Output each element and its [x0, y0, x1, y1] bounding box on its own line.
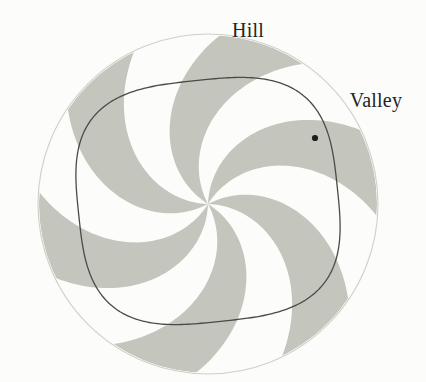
hill-label: Hill: [232, 20, 264, 40]
valley-point-marker: [312, 135, 318, 141]
figure-container: Hill Valley: [0, 0, 426, 382]
pinwheel-blade: [114, 204, 247, 373]
pinwheel-blade: [170, 35, 303, 204]
valley-label: Valley: [350, 90, 402, 110]
pinwheel-diagram-svg: [0, 0, 426, 382]
